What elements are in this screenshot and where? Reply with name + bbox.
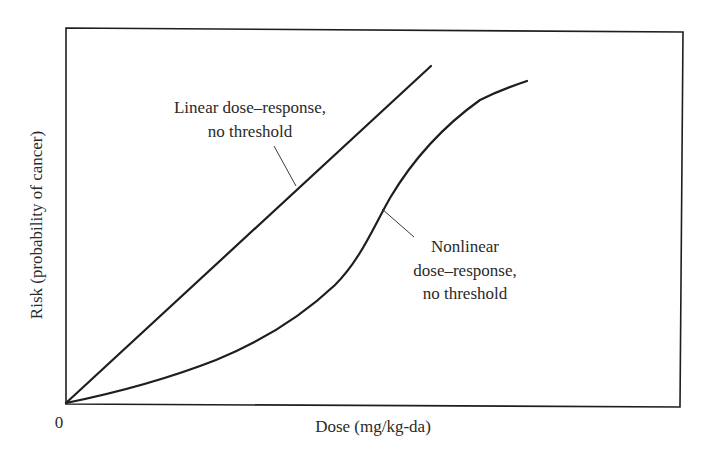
plot-frame (66, 28, 683, 407)
nonlinear-annotation-line3: no threshold (423, 284, 508, 303)
linear-annotation-line2: no threshold (208, 122, 293, 141)
linear-annotation-leader (274, 146, 296, 186)
x-axis-label: Dose (mg/kg-da) (315, 417, 431, 436)
nonlinear-annotation-line1: Nonlinear (431, 237, 499, 256)
nonlinear-annotation-line2: dose–response, (413, 261, 516, 280)
dose-response-chart: Linear dose–response, no threshold Nonli… (0, 0, 707, 457)
y-axis-label: Risk (probability of cancer) (27, 131, 46, 319)
nonlinear-annotation-leader (382, 209, 414, 237)
origin-tick-label: 0 (55, 413, 64, 432)
linear-annotation-line1: Linear dose–response, (174, 98, 326, 117)
